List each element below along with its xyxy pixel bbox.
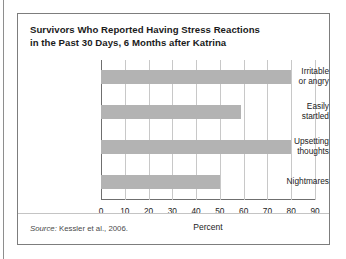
y-axis-tick-label: Irritableor angry <box>251 67 329 86</box>
bar[interactable] <box>101 175 220 189</box>
source-divider <box>18 213 329 214</box>
x-axis-tick-label: 90 <box>300 206 330 216</box>
y-axis-tick-label: Easilystartled <box>251 102 329 121</box>
x-axis-label: Percent <box>101 222 315 232</box>
page-edge-rule <box>3 0 4 259</box>
bar-chart: Irritableor angryEasilystartledUpsetting… <box>18 58 329 208</box>
source-note: Source: Kessler et al., 2006. <box>30 224 128 233</box>
y-axis-tick-label-line: or angry <box>251 77 329 87</box>
figure-title-line-1: Survivors Who Reported Having Stress Rea… <box>30 24 318 37</box>
y-axis-tick-label: Upsettingthoughts <box>251 137 329 156</box>
source-citation: Kessler et al., 2006. <box>57 224 128 233</box>
figure-box: Survivors Who Reported Having Stress Rea… <box>17 13 330 245</box>
y-axis-tick-label-line: thoughts <box>251 147 329 157</box>
bar[interactable] <box>101 105 241 119</box>
y-axis-tick-label: Nightmares <box>251 177 329 187</box>
y-axis-tick-label-line: startled <box>251 112 329 122</box>
figure-title: Survivors Who Reported Having Stress Rea… <box>30 24 318 49</box>
y-axis-tick-label-line: Nightmares <box>251 177 329 187</box>
source-label: Source: <box>30 224 57 233</box>
figure-title-line-2: in the Past 30 Days, 6 Months after Katr… <box>30 37 318 50</box>
